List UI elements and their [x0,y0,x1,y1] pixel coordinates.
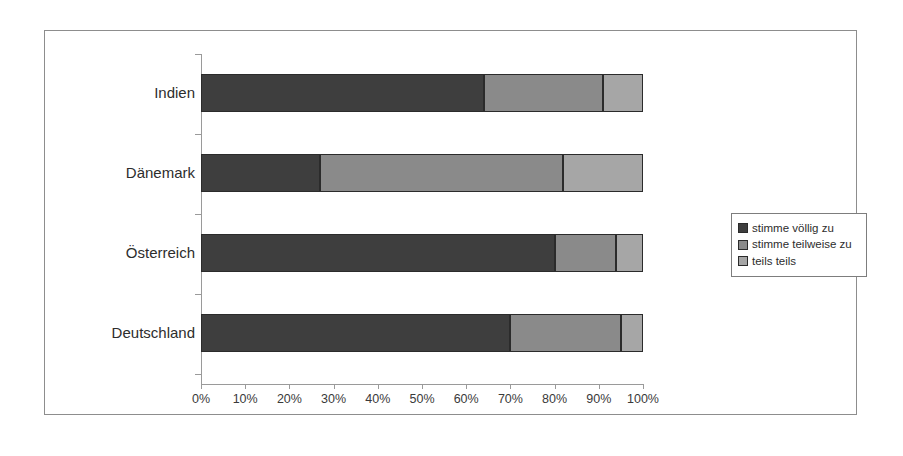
x-axis-tick [643,384,644,389]
y-axis-tick [195,214,201,215]
category-axis-labels: IndienDänemarkÖsterreichDeutschland [45,54,195,391]
x-axis-tick-label: 40% [365,392,390,406]
bar-row [201,314,643,352]
bar-segment [616,234,643,272]
bar-row [201,154,643,192]
chart-legend: stimme völlig zustimme teilweise zuteils… [731,213,867,277]
legend-swatch-icon [738,223,748,233]
x-axis-tick-label: 20% [277,392,302,406]
y-axis-tick [195,294,201,295]
bar-segment [201,74,484,112]
bar-segment [201,234,555,272]
legend-swatch-icon [738,240,748,250]
legend-item: stimme teilweise zu [738,237,860,251]
x-axis-tick-label: 30% [321,392,346,406]
x-axis-tick [289,384,290,389]
bar-row [201,234,643,272]
x-axis-tick-label: 90% [586,392,611,406]
category-label-österreich: Österreich [126,244,195,261]
x-axis-tick [245,384,246,389]
x-axis-tick [201,384,202,389]
chart-figure-frame: IndienDänemarkÖsterreichDeutschland 0%10… [44,30,857,415]
x-axis-tick-label: 100% [627,392,659,406]
x-axis-tick [599,384,600,389]
legend-swatch-icon [738,256,748,266]
x-axis-tick [466,384,467,389]
bar-segment [621,314,643,352]
x-axis-tick [510,384,511,389]
x-axis-tick-label: 10% [233,392,258,406]
bar-segment [510,314,621,352]
bar-segment [320,154,563,192]
x-axis-tick [378,384,379,389]
bar-segment [603,74,643,112]
x-axis-tick-label: 0% [192,392,210,406]
y-axis-tick [195,374,201,375]
bar-segment [555,234,617,272]
bar-segment [201,314,510,352]
value-axis-labels: 0%10%20%30%40%50%60%70%80%90%100% [201,392,643,414]
legend-label: stimme völlig zu [752,221,834,235]
legend-item: teils teils [738,254,860,268]
legend-label: teils teils [752,254,796,268]
x-axis-tick-label: 80% [542,392,567,406]
legend-item: stimme völlig zu [738,221,860,235]
x-axis-tick [555,384,556,389]
x-axis-tick [422,384,423,389]
bar-row [201,74,643,112]
bar-segment [563,154,643,192]
legend-label: stimme teilweise zu [752,237,852,251]
y-axis-tick [195,54,201,55]
category-label-indien: Indien [154,84,195,101]
category-label-deutschland: Deutschland [112,324,195,341]
bar-segment [484,74,603,112]
bar-segment [201,154,320,192]
x-axis-tick-label: 50% [409,392,434,406]
x-axis-tick-label: 70% [498,392,523,406]
category-label-dänemark: Dänemark [126,164,195,181]
x-axis-tick-label: 60% [454,392,479,406]
y-axis-tick [195,134,201,135]
x-axis-tick [334,384,335,389]
plot-area [201,54,643,391]
